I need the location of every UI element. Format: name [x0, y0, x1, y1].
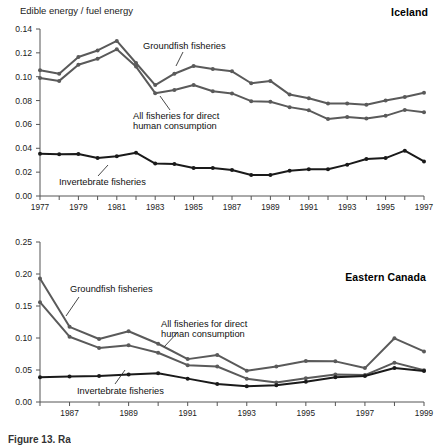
x-tick-label: 1989	[252, 202, 288, 212]
y-tick-label: 0.04	[2, 143, 32, 153]
x-tick-label: 1995	[288, 408, 324, 418]
annotation-all-fisheries-eastern-canada-line1: All fisheries for direct	[161, 319, 247, 330]
y-tick-label: 0.10	[2, 333, 32, 343]
annotation-all-fisheries-iceland-line1: All fisheries for direct	[133, 111, 219, 122]
y-tick-label: 0.10	[2, 72, 32, 82]
x-tick-label: 1993	[329, 202, 365, 212]
x-tick-label: 1997	[406, 202, 436, 212]
y-tick-label: 0.08	[2, 96, 32, 106]
annotation-groundfish-eastern-canada: Groundfish fisheries	[70, 284, 153, 295]
x-tick-label: 1991	[291, 202, 327, 212]
x-tick-label: 1985	[176, 202, 212, 212]
annotation-all-fisheries-iceland-line2: human consumption	[133, 121, 217, 132]
annotation-all-fisheries-eastern-canada-line2: human consumption	[161, 329, 245, 340]
x-tick-label: 1991	[170, 408, 206, 418]
x-tick-label: 1993	[229, 408, 265, 418]
y-tick-label: 0.00	[2, 191, 32, 201]
x-tick-label: 1987	[52, 408, 88, 418]
y-tick-label: 0.20	[2, 269, 32, 279]
chart-panel-eastern-canada: Eastern Canada Groundfish fisheries All …	[0, 215, 436, 442]
x-tick-label: 1979	[60, 202, 96, 212]
y-tick-label: 0.05	[2, 365, 32, 375]
y-tick-label: 0.06	[2, 119, 32, 129]
x-tick-label: 1987	[214, 202, 250, 212]
y-tick-label: 0.25	[2, 237, 32, 247]
x-tick-label: 1981	[99, 202, 135, 212]
x-tick-label: 1999	[406, 408, 436, 418]
annotation-invertebrate-iceland: Invertebrate fisheries	[59, 177, 146, 188]
x-tick-label: 1997	[347, 408, 383, 418]
figure-caption: Figure 13. Ra	[8, 434, 71, 446]
x-tick-label: 1983	[137, 202, 173, 212]
x-tick-label: 1989	[111, 408, 147, 418]
x-tick-label: 1977	[22, 202, 58, 212]
y-tick-label: 0.15	[2, 301, 32, 311]
chart-panel-iceland: Edible energy / fuel energy Iceland Grou…	[0, 0, 436, 215]
x-tick-label: 1995	[368, 202, 404, 212]
y-tick-label: 0.00	[2, 397, 32, 407]
annotation-groundfish-iceland: Groundfish fisheries	[143, 41, 226, 52]
annotation-invertebrate-eastern-canada: Invertebrate fisheries	[77, 386, 164, 397]
y-tick-label: 0.14	[2, 24, 32, 34]
y-tick-label: 0.12	[2, 48, 32, 58]
y-tick-label: 0.02	[2, 167, 32, 177]
